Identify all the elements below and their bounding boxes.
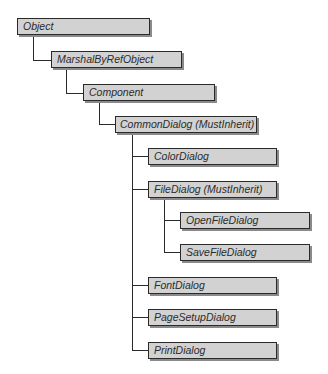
connector-pagesetupdialog-branch <box>132 317 148 318</box>
connector-marshal-component-horizontal <box>66 93 83 94</box>
node-color-dialog: ColorDialog <box>148 148 277 165</box>
node-marshal-by-ref-object: MarshalByRefObject <box>51 51 182 68</box>
connector-fontdialog-branch <box>132 285 148 286</box>
connector-object-marshal-horizontal <box>33 60 51 61</box>
node-common-dialog: CommonDialog (MustInherit) <box>115 116 257 133</box>
connector-object-marshal-vertical <box>33 35 34 61</box>
class-hierarchy-diagram: Object MarshalByRefObject Component Comm… <box>0 0 328 374</box>
connector-component-commondialog-horizontal <box>99 124 115 125</box>
node-open-file-dialog: OpenFileDialog <box>180 212 310 229</box>
connector-openfiledialog-branch <box>164 220 180 221</box>
connector-savefiledialog-branch <box>164 252 180 253</box>
connector-colordialog-branch <box>132 156 148 157</box>
connector-marshal-component-vertical <box>66 68 67 94</box>
node-save-file-dialog: SaveFileDialog <box>180 244 310 261</box>
node-component: Component <box>83 84 215 101</box>
node-page-setup-dialog: PageSetupDialog <box>148 309 277 326</box>
connector-component-commondialog-vertical <box>99 101 100 125</box>
node-font-dialog: FontDialog <box>148 277 277 294</box>
node-print-dialog: PrintDialog <box>148 342 277 359</box>
connector-commondialog-trunk <box>132 133 133 351</box>
node-object: Object <box>17 18 150 35</box>
connector-printdialog-branch <box>132 350 148 351</box>
node-file-dialog: FileDialog (MustInherit) <box>148 181 277 198</box>
connector-filedialog-trunk <box>164 197 165 253</box>
connector-filedialog-branch <box>132 189 148 190</box>
